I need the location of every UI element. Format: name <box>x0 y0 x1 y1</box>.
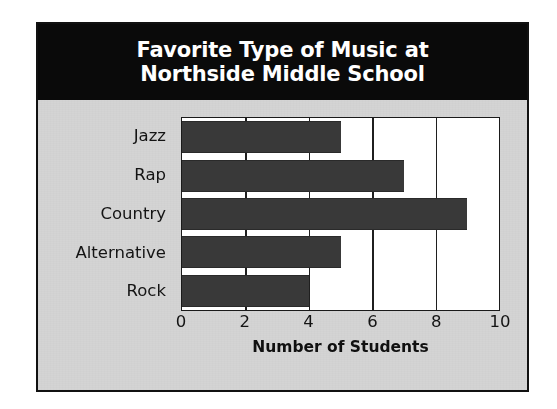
bar-series <box>182 118 499 310</box>
category-axis-labels: JazzRapCountryAlternativeRock <box>38 117 175 311</box>
category-label: Rap <box>38 156 175 195</box>
chart-card: Favorite Type of Music at Northside Midd… <box>36 22 529 392</box>
category-label: Jazz <box>38 117 175 156</box>
bar <box>182 121 341 153</box>
bar <box>182 198 467 230</box>
bar <box>182 275 309 307</box>
bar <box>182 160 404 192</box>
bar-slot <box>182 195 499 233</box>
bar-slot <box>182 272 499 310</box>
x-axis-title: Number of Students <box>181 340 500 356</box>
chart-title-band: Favorite Type of Music at Northside Midd… <box>38 24 527 100</box>
plot-area <box>181 117 500 311</box>
bar <box>182 236 341 268</box>
bar-slot <box>182 233 499 271</box>
chart-body: JazzRapCountryAlternativeRock 0246810 Nu… <box>38 100 527 390</box>
value-axis-ticks: 0246810 <box>181 314 500 338</box>
value-tick-label: 10 <box>490 314 511 331</box>
category-label: Rock <box>38 272 175 311</box>
chart-page: Favorite Type of Music at Northside Midd… <box>0 0 557 409</box>
bar-slot <box>182 156 499 194</box>
value-tick-label: 2 <box>240 314 251 331</box>
category-label: Alternative <box>38 233 175 272</box>
bar-slot <box>182 118 499 156</box>
value-tick-label: 4 <box>303 314 314 331</box>
value-tick-label: 6 <box>367 314 378 331</box>
value-tick-label: 0 <box>176 314 187 331</box>
value-tick-label: 8 <box>431 314 442 331</box>
chart-title: Favorite Type of Music at Northside Midd… <box>136 38 428 86</box>
category-label: Country <box>38 195 175 234</box>
